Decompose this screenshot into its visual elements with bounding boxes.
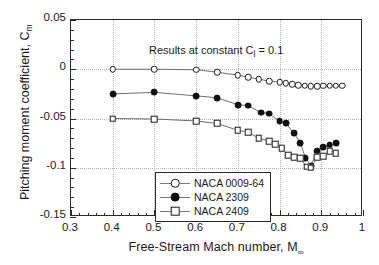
x-tick-minor (288, 213, 289, 217)
legend-marker (171, 207, 180, 216)
x-axis-title-main: Free-Stream Mach number, M (128, 240, 297, 254)
x-tick-minor (104, 213, 105, 217)
data-point-filled-circle (151, 89, 158, 96)
x-tick-label: 0.8 (259, 221, 299, 233)
data-point-filled-circle (234, 101, 241, 108)
x-axis-title: Free-Stream Mach number, M∞ (70, 240, 362, 257)
data-point-filled-circle (214, 94, 221, 101)
legend-symbol-open-circle (160, 177, 190, 189)
data-point-open-square (308, 164, 315, 171)
x-tick-minor (271, 213, 272, 217)
x-tick-minor (138, 213, 139, 217)
data-point-open-square (235, 127, 242, 134)
data-point-open-square (297, 155, 304, 162)
x-tick-minor (330, 213, 331, 217)
y-tick-minor (70, 178, 74, 179)
y-tick-minor (70, 148, 74, 149)
data-point-open-circle (214, 69, 221, 76)
x-tick-label: 0.3 (50, 221, 90, 233)
data-point-open-circle (339, 83, 346, 90)
annotation-tail: = 0.1 (255, 44, 283, 56)
data-point-filled-circle (332, 140, 339, 147)
legend-marker (171, 179, 180, 188)
data-point-filled-circle (257, 109, 264, 116)
legend-item[interactable]: NACA 0009-64 (160, 176, 264, 190)
annotation-main: Results at constant C (149, 44, 254, 56)
y-tick-minor (70, 128, 74, 129)
annotation-text: Results at constant Cl = 0.1 (149, 44, 283, 59)
x-tick-major (280, 210, 281, 216)
y-tick-minor (70, 89, 74, 90)
data-point-filled-circle (297, 140, 304, 147)
y-axis-title-subscript: m (24, 24, 34, 31)
legend[interactable]: NACA 0009-64NACA 2309NACA 2409 (155, 172, 271, 222)
data-point-filled-circle (282, 120, 289, 127)
x-tick-major (113, 210, 114, 216)
data-point-open-square (245, 129, 252, 136)
plot-area: Results at constant Cl = 0.1 NACA 0009-6… (70, 19, 362, 216)
y-tick-major (70, 119, 76, 120)
legend-marker (171, 193, 180, 202)
x-tick-minor (129, 213, 130, 217)
y-axis-title-main: Pitching moment coefficient, C (18, 32, 32, 201)
data-point-filled-circle (266, 110, 273, 117)
y-tick-major (70, 69, 76, 70)
x-tick-label: 0.6 (175, 221, 215, 233)
data-point-open-square (333, 150, 340, 157)
data-point-open-circle (255, 76, 262, 83)
x-tick-major (363, 210, 364, 216)
x-tick-label: 0.9 (300, 221, 340, 233)
y-tick-minor (70, 30, 74, 31)
legend-symbol-filled-circle (160, 191, 190, 203)
y-tick-minor (70, 158, 74, 159)
y-tick-major (70, 217, 76, 218)
legend-label: NACA 0009-64 (194, 177, 264, 189)
y-tick-minor (70, 138, 74, 139)
y-tick-minor (70, 79, 74, 80)
data-point-open-circle (109, 66, 116, 73)
y-tick-minor (70, 109, 74, 110)
x-tick-minor (296, 213, 297, 217)
x-tick-minor (338, 213, 339, 217)
x-tick-label: 1 (342, 221, 379, 233)
x-tick-label: 0.7 (217, 221, 257, 233)
x-axis-title-subscript: ∞ (298, 247, 304, 257)
legend-item[interactable]: NACA 2309 (160, 190, 264, 204)
y-tick-minor (70, 59, 74, 60)
y-tick-minor (70, 99, 74, 100)
x-tick-minor (305, 213, 306, 217)
data-point-open-square (255, 135, 262, 142)
x-tick-label: 0.5 (133, 221, 173, 233)
x-tick-minor (88, 213, 89, 217)
data-point-open-square (193, 118, 200, 125)
data-point-open-square (214, 120, 221, 127)
y-tick-minor (70, 187, 74, 188)
y-tick-minor (70, 197, 74, 198)
chart-figure: Results at constant Cl = 0.1 NACA 0009-6… (0, 0, 379, 265)
x-tick-label: 0.4 (92, 221, 132, 233)
x-tick-minor (346, 213, 347, 217)
legend-item[interactable]: NACA 2409 (160, 204, 264, 218)
x-tick-minor (146, 213, 147, 217)
data-point-open-circle (151, 66, 158, 73)
data-point-filled-circle (291, 130, 298, 137)
data-point-filled-circle (109, 90, 116, 97)
data-point-open-square (151, 116, 158, 123)
data-point-open-square (278, 145, 285, 152)
data-point-open-circle (235, 72, 242, 79)
data-point-open-square (109, 115, 116, 122)
x-tick-minor (313, 213, 314, 217)
x-tick-major (71, 210, 72, 216)
legend-symbol-open-square (160, 205, 190, 217)
x-tick-major (321, 210, 322, 216)
legend-label: NACA 2409 (194, 205, 249, 217)
x-tick-minor (79, 213, 80, 217)
x-tick-minor (355, 213, 356, 217)
data-point-open-circle (266, 78, 273, 85)
data-point-open-circle (193, 66, 200, 73)
y-axis-title: Pitching moment coefficient, Cm (18, 2, 35, 222)
data-point-filled-circle (245, 102, 252, 109)
y-tick-minor (70, 40, 74, 41)
x-tick-minor (96, 213, 97, 217)
y-tick-major (70, 20, 76, 21)
